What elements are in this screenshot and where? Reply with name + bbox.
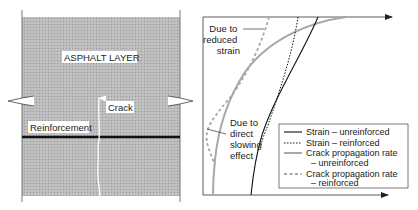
left-break-symbol bbox=[8, 96, 34, 106]
right-break-symbol bbox=[168, 96, 193, 106]
annotation-direct-slowing: Due to direct slowing effect bbox=[230, 117, 264, 161]
diagram: ASPHALT LAYER Crack Reinforcement Due to… bbox=[0, 0, 418, 210]
direct-slowing-leader bbox=[207, 129, 226, 134]
strain-chart: Due to reduced strain Due to direct slow… bbox=[203, 17, 408, 195]
asphalt-layer bbox=[22, 17, 180, 196]
legend-label-strain-reinforced: Strain – reinforced bbox=[306, 138, 380, 148]
asphalt-layer-label: ASPHALT LAYER bbox=[64, 52, 140, 63]
asphalt-section: ASPHALT LAYER Crack Reinforcement bbox=[8, 10, 193, 202]
crack-label: Crack bbox=[108, 102, 133, 113]
legend-label-strain-unreinforced: Strain – unreinforced bbox=[306, 127, 390, 137]
legend: Strain – unreinforced Strain – reinforce… bbox=[279, 124, 408, 188]
annotation-reduced-strain: Due to reduced strain bbox=[203, 23, 240, 56]
reinforcement-label: Reinforcement bbox=[30, 122, 92, 133]
